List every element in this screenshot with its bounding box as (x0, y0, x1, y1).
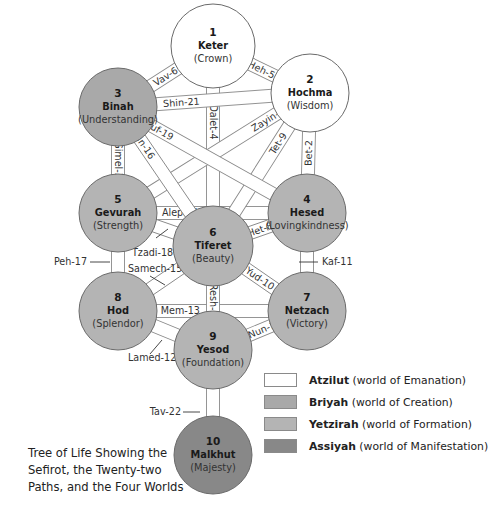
sefirah-num: 1 (209, 26, 216, 38)
sefirah-meaning: (Understanding) (78, 114, 158, 125)
sefirah-meaning: (Crown) (194, 53, 233, 64)
sefirah-netzach: 7Netzach(Victory) (268, 272, 346, 350)
legend-name: Briyah (309, 396, 348, 409)
path-label: Gimel-3 (113, 141, 124, 179)
legend-name: Yetzirah (309, 418, 359, 431)
sefirah-name: Keter (198, 40, 228, 51)
sefirah-name: Hod (107, 305, 129, 316)
sefirah-meaning: (Wisdom) (287, 100, 334, 111)
path-label: Lamed-12 (128, 352, 176, 363)
caption-line: Paths, and the Four Worlds (28, 479, 208, 496)
sefirah-meaning: (Strength) (93, 220, 143, 231)
sefirah-name: Binah (102, 101, 133, 112)
worlds-legend: Atzilut (world of Emanation) Briyah (wor… (264, 369, 488, 457)
sefirah-meaning: (Foundation) (182, 357, 244, 368)
sefirah-num: 2 (306, 73, 313, 85)
sefirah-hod: 8Hod(Splendor) (79, 272, 157, 350)
sefirah-gevurah: 5Gevurah(Strength) (79, 174, 157, 252)
sefirah-meaning: (Splendor) (92, 318, 143, 329)
sefirah-yesod: 9Yesod(Foundation) (174, 311, 252, 389)
path-label: Kaf-11 (322, 256, 353, 267)
sefirah-meaning: (Lovingkindness) (265, 220, 348, 231)
sefirah-hochma: 2Hochma(Wisdom) (271, 54, 349, 132)
figure-caption: Tree of Life Showing the Sefirot, the Tw… (28, 445, 208, 496)
sefirah-tiferet: 6Tiferet(Beauty) (173, 206, 253, 286)
path-label: Samech-15 (128, 263, 182, 274)
path-label: Bet-2 (303, 140, 315, 166)
legend-item-yetzirah: Yetzirah (world of Formation) (264, 413, 488, 435)
sefirah-num: 6 (209, 226, 216, 238)
sefirah-num: 8 (114, 291, 121, 303)
sefirah-num: 9 (209, 330, 216, 342)
sefirah-name: Netzach (285, 305, 330, 316)
briyah-swatch (264, 395, 297, 409)
sefirah-hesed: 4Hesed(Lovingkindness) (265, 174, 348, 252)
sefirah-name: Yesod (196, 344, 229, 355)
sefirah-meaning: (Beauty) (192, 253, 234, 264)
caption-line: Tree of Life Showing the (28, 445, 208, 462)
sefirah-name: Hesed (290, 207, 324, 218)
path-label: Tzadi-18 (131, 247, 173, 258)
sefirah-num: 3 (114, 87, 121, 99)
sefirah-name: Tiferet (194, 240, 231, 251)
legend-name: Assiyah (309, 440, 356, 453)
sefirah-num: 4 (303, 193, 310, 205)
sefirah-keter: 1Keter(Crown) (171, 4, 255, 88)
path-label: Dalet-4 (208, 104, 219, 139)
path-label: Mem-13 (161, 305, 200, 316)
legend-name: Atzilut (309, 374, 349, 387)
sefirah-name: Gevurah (95, 207, 141, 218)
sefirah-num: 7 (303, 291, 310, 303)
legend-item-assiyah: Assiyah (world of Manifestation) (264, 435, 488, 457)
legend-item-atzilut: Atzilut (world of Emanation) (264, 369, 488, 391)
legend-desc: (world of Creation) (352, 396, 453, 409)
yetzirah-swatch (264, 417, 297, 431)
assiyah-swatch (264, 439, 297, 453)
sefirah-name: Hochma (288, 87, 333, 98)
path-label: Tav-22 (149, 406, 181, 417)
legend-desc: (world of Formation) (362, 418, 472, 431)
atzilut-swatch (264, 373, 297, 387)
legend-desc: (world of Emanation) (353, 374, 467, 387)
sefirah-num: 5 (114, 193, 121, 205)
legend-desc: (world of Manifestation) (359, 440, 488, 453)
path-label: Peh-17 (54, 256, 87, 267)
sefirah-meaning: (Victory) (286, 318, 328, 329)
legend-item-briyah: Briyah (world of Creation) (264, 391, 488, 413)
sefirah-binah: 3Binah(Understanding) (78, 68, 158, 146)
caption-line: Sefirot, the Twenty-two (28, 462, 208, 479)
